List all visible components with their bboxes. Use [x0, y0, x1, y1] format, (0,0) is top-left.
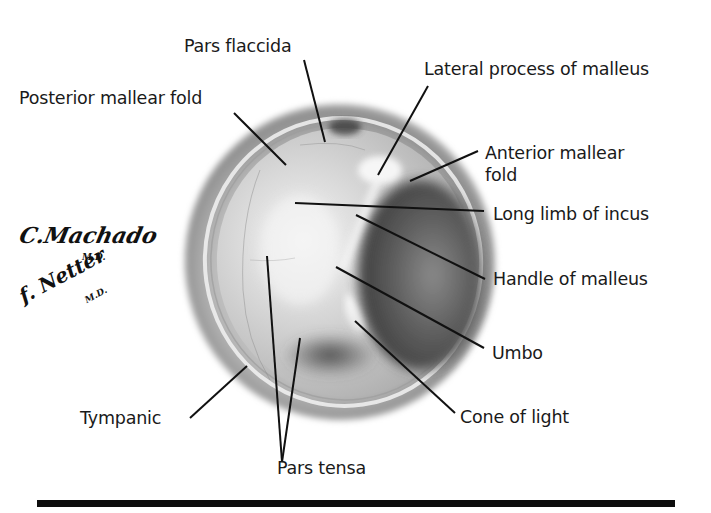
label-handle-of-malleus: Handle of malleus	[493, 269, 648, 289]
label-umbo: Umbo	[492, 343, 543, 363]
label-pars-tensa: Pars tensa	[277, 458, 366, 478]
label-posterior-mallear-fold: Posterior mallear fold	[19, 88, 202, 108]
label-tympanic: Tympanic	[80, 408, 161, 428]
label-cone-of-light: Cone of light	[460, 407, 569, 427]
label-pars-flaccida: Pars flaccida	[184, 36, 291, 56]
signature-machado: C.Machado	[17, 222, 160, 248]
label-anterior-mallear-fold-1: Anterior mallear	[485, 143, 624, 163]
label-lateral-process-of-malleus: Lateral process of malleus	[424, 59, 649, 79]
label-long-limb-of-incus: Long limb of incus	[493, 204, 649, 224]
leader-tympanic	[190, 366, 247, 418]
bottom-rule-divider	[37, 500, 675, 507]
figure-stage: Pars flaccida Lateral process of malleus…	[0, 0, 711, 513]
label-anterior-mallear-fold-2: fold	[485, 165, 517, 185]
